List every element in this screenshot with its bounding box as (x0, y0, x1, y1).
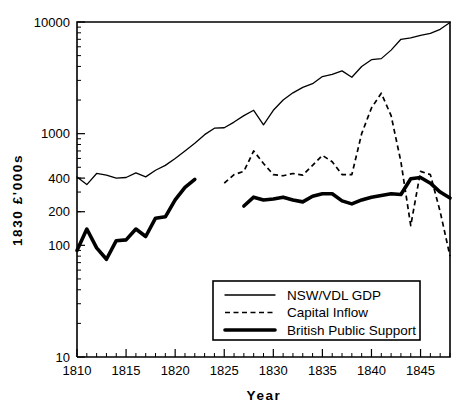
y-axis-major-ticks (77, 22, 85, 357)
y-axis-title: 1830 £'000s (10, 154, 25, 246)
legend-label-2: Capital Inflow (287, 305, 368, 320)
chart-legend: NSW/VDL GDPCapital InflowBritish Public … (213, 281, 420, 340)
x-tick-label: 1835 (308, 363, 337, 378)
x-tick-label: 1825 (210, 363, 239, 378)
x-tick-label: 1810 (63, 363, 92, 378)
series-line-british-public-support (77, 179, 195, 259)
y-tick-label: 400 (48, 171, 70, 186)
x-axis-tick-labels: 18101815182018251830183518401845 (63, 363, 435, 378)
y-axis-tick-labels: 10000100040020010010 (34, 15, 70, 365)
x-tick-label: 1815 (112, 363, 141, 378)
y-tick-label: 200 (48, 204, 70, 219)
x-tick-label: 1820 (161, 363, 190, 378)
y-tick-label: 100 (48, 238, 70, 253)
x-tick-label: 1840 (357, 363, 386, 378)
series-line-british-public-support (244, 178, 450, 207)
legend-label-3: British Public Support (287, 323, 416, 338)
line-chart-svg: 10000100040020010010 1810181518201825183… (0, 0, 466, 411)
data-series-layer (77, 22, 450, 259)
x-tick-label: 1830 (259, 363, 288, 378)
x-axis-title: Year (247, 388, 282, 403)
x-axis-major-ticks (77, 349, 421, 357)
series-line-nsw-vdl-gdp (77, 22, 450, 184)
y-tick-label: 10000 (34, 15, 70, 30)
chart-figure: 10000100040020010010 1810181518201825183… (0, 0, 466, 411)
x-tick-label: 1845 (406, 363, 435, 378)
y-tick-label: 1000 (41, 126, 70, 141)
legend-label-1: NSW/VDL GDP (287, 288, 381, 303)
